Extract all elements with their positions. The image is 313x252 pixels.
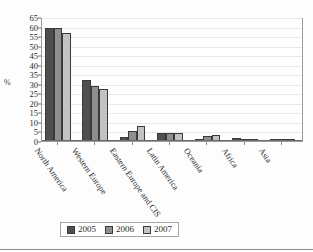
bar-group (232, 19, 258, 141)
legend-swatch-icon (67, 226, 75, 234)
bar (91, 86, 100, 141)
bar-group (82, 19, 108, 141)
x-axis-labels: North AmericaWestern EuropeEastern Europ… (41, 144, 303, 214)
x-axis-tick-mark (244, 142, 245, 145)
bar-chart: % 05101520253035404550556065 North Ameri… (0, 0, 313, 252)
bars-layer (42, 19, 302, 141)
plot-area (41, 18, 303, 142)
bar (54, 28, 63, 141)
legend-item: 2005 (67, 225, 96, 234)
y-axis-ticks: 05101520253035404550556065 (14, 18, 38, 142)
x-axis-tick-label: Oceania (182, 146, 206, 175)
x-axis-tick-mark (169, 142, 170, 145)
y-axis-tick-label: 55 (30, 33, 39, 42)
y-axis-tick-label: 45 (30, 52, 39, 61)
y-axis-tick-label: 25 (30, 90, 39, 99)
x-axis-tick-label: Asia (257, 146, 274, 165)
y-axis-tick-label: 35 (30, 71, 39, 80)
bar (99, 89, 108, 141)
x-axis-tick-label: Africa (220, 146, 241, 170)
legend-label: 2005 (78, 225, 96, 234)
y-axis-tick-label: 30 (30, 81, 39, 90)
y-axis-tick-label: 40 (30, 61, 39, 70)
x-axis-tick-mark (281, 142, 282, 145)
bar (45, 28, 54, 141)
legend-item: 2007 (143, 225, 172, 234)
y-axis-tick-label: 10 (30, 119, 39, 128)
bar-group (195, 19, 221, 141)
bar (62, 33, 71, 141)
x-axis-tick-label: North America (33, 146, 70, 193)
x-axis-tick-mark (57, 142, 58, 145)
y-axis-tick-label: 60 (30, 23, 39, 32)
legend-swatch-icon (143, 226, 151, 234)
bar (137, 126, 146, 141)
chart-legend: 200520062007 (60, 222, 179, 237)
legend-label: 2007 (154, 225, 172, 234)
y-axis-tick-label: 50 (30, 42, 39, 51)
legend-swatch-icon (105, 226, 113, 234)
y-axis-title: % (4, 78, 11, 87)
x-axis-tick-label: Latin America (145, 146, 181, 192)
y-axis-tick-label: 20 (30, 100, 39, 109)
y-axis-tick-label: 15 (30, 109, 39, 118)
page-divider (0, 249, 313, 250)
x-axis-tick-mark (94, 142, 95, 145)
y-axis-tick-label: 65 (30, 14, 39, 23)
bar-group (45, 19, 71, 141)
x-axis-tick-mark (206, 142, 207, 145)
legend-label: 2006 (116, 225, 134, 234)
x-axis-baseline (42, 140, 302, 141)
legend-item: 2006 (105, 225, 134, 234)
bar-group (157, 19, 183, 141)
x-axis-tick-label: Western Europe (70, 146, 109, 196)
bar-group (120, 19, 146, 141)
bar-group (270, 19, 296, 141)
x-axis-tick-mark (132, 142, 133, 145)
bar (82, 80, 91, 141)
